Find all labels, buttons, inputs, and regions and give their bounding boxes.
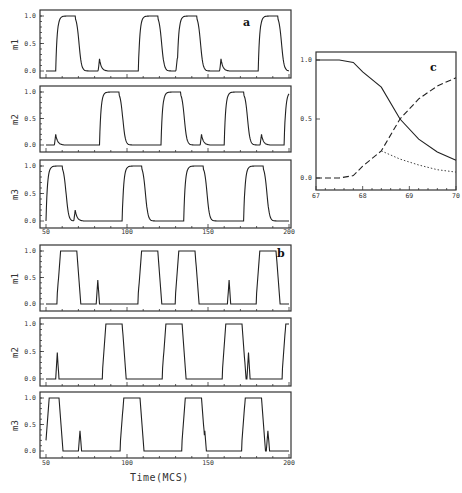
y-tick-label: 0.0 [24,141,36,149]
series-solid [316,60,456,160]
x-tick-label: 68 [359,192,367,200]
y-tick-label: 0.5 [24,421,36,429]
x-tick-label: 150 [202,459,214,467]
x-tick-label: 100 [121,459,133,467]
series-m2 [46,324,289,379]
y-tick-label: 1.0 [24,88,36,96]
y-tick-label: 0.5 [24,115,36,123]
plot-frame [40,86,291,152]
y-tick-label: 0.5 [24,40,36,48]
panels-a-b: 0.00.51.0m10.00.51.0m20.00.51.0m35010015… [10,10,295,467]
y-tick-label: 1.0 [24,247,36,255]
y-tick-label: 1.0 [24,394,36,402]
plot-frame [40,245,291,311]
x-tick-label: 50 [42,459,50,467]
panel-label-a: a [243,16,250,29]
x-axis-title: Time(MCS) [130,472,189,483]
panel-b-subplot-m1: 0.00.51.0m1 [10,245,291,311]
y-axis-label-m3: m3 [10,420,20,431]
y-tick-label: 0.0 [24,67,36,75]
plot-frame [40,392,291,458]
y-tick-label: 1.0 [24,162,36,170]
y-tick-label: 0.0 [24,217,36,225]
series-m3 [46,398,289,451]
y-axis-label-m3: m3 [10,189,20,200]
y-tick-label: 0.0 [300,174,312,182]
y-tick-label: 1.0 [24,12,36,20]
y-tick-label: 0.5 [24,190,36,198]
y-tick-label: 1.0 [300,56,312,64]
y-tick-label: 0.5 [24,274,36,282]
y-axis-label-m1: m1 [10,273,20,284]
y-tick-label: 1.0 [24,320,36,328]
series-m1 [46,251,289,304]
panel-a-subplot-m2: 0.00.51.0m2 [10,86,291,152]
y-axis-label-m2: m2 [10,347,20,358]
y-axis-label-m2: m2 [10,114,20,125]
series-dotted [381,151,456,172]
y-axis-label-m1: m1 [10,39,20,50]
panel-label-b: b [277,247,285,260]
y-tick-label: 0.0 [24,447,36,455]
series-m2 [46,92,289,145]
series-m1 [46,16,289,71]
x-tick-label: 70 [452,192,460,200]
figure: 0.00.51.0m10.00.51.0m20.00.51.0m35010015… [0,0,462,493]
x-tick-label: 69 [405,192,413,200]
series-dashed [316,78,456,178]
x-tick-label: 50 [42,228,50,236]
panel-a-subplot-m3: 0.00.51.0m3 [10,160,291,228]
panel-b-subplot-m2: 0.00.51.0m2 [10,318,291,386]
series-m3 [46,166,289,221]
y-tick-label: 0.5 [24,348,36,356]
x-tick-label: 150 [202,228,214,236]
x-tick-label: 100 [121,228,133,236]
x-tick-label: 67 [312,192,320,200]
panel-c: 0.00.51.067686970 [300,52,460,200]
x-tick-label: 200 [283,459,295,467]
y-tick-label: 0.5 [300,115,312,123]
y-tick-label: 0.0 [24,300,36,308]
panel-label-c: c [430,61,437,74]
x-tick-label: 200 [283,228,295,236]
y-tick-label: 0.0 [24,375,36,383]
panel-b-subplot-m3: 0.00.51.0m3 [10,392,291,458]
